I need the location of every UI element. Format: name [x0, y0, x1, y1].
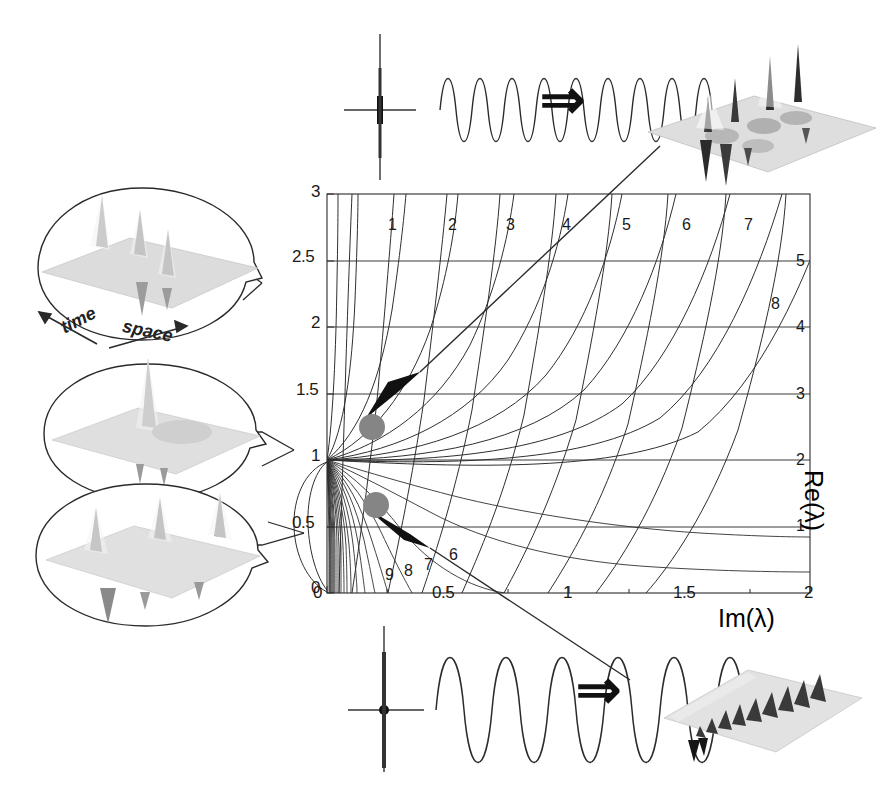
contour-label-right-4: 4: [796, 318, 805, 336]
ytick-1: 1: [311, 446, 320, 466]
surface-plot-icon-bottom-right: [648, 640, 878, 785]
contour-label-right-5: 5: [796, 252, 805, 270]
ytick-2p5: 2.5: [292, 247, 314, 267]
xtick-0p5: 0.5: [432, 583, 454, 603]
xtick-2: 2: [804, 583, 813, 603]
contour-label-inner-7: 7: [424, 556, 433, 574]
ytick-1p5: 1.5: [296, 380, 318, 400]
grid-horizontal: [327, 261, 810, 527]
xtick-1: 1: [563, 583, 572, 603]
implies-arrow-top: ⇒: [540, 72, 585, 126]
xtick-1p5: 1.5: [673, 583, 695, 603]
contour-label-right-3: 3: [796, 385, 805, 403]
ytick-2: 2: [311, 313, 320, 333]
contour-label-extra-8: 8: [771, 295, 780, 313]
figure-canvas: 0 0.5 1 1.5 2 0 0.5 1 1.5 2 2.5 3 Im(λ) …: [0, 0, 896, 792]
contour-curves-upper: [327, 194, 834, 465]
cross-axes-spectrum-icon: [348, 626, 424, 772]
contour-label-top-4: 4: [562, 216, 571, 234]
ytick-0: 0: [311, 578, 320, 598]
contour-label-inner-9: 9: [385, 566, 394, 584]
contour-label-inner-6: 6: [449, 546, 458, 564]
contour-label-right-2: 2: [796, 451, 805, 469]
contour-label-top-3: 3: [506, 216, 515, 234]
contour-label-top-6: 6: [682, 216, 691, 234]
eigenvalue-marker-upper: [359, 414, 385, 440]
ytick-0p5: 0.5: [292, 513, 314, 533]
surface-plot-icon-top-right: [636, 36, 886, 186]
cross-axes-spectrum-icon: [344, 34, 416, 180]
contour-label-inner-8: 8: [404, 562, 413, 580]
contour-label-top-1: 1: [388, 216, 397, 234]
contour-label-top-2: 2: [448, 216, 457, 234]
callout-three-peaks-bottom: [28, 476, 288, 636]
contour-label-top-5: 5: [622, 216, 631, 234]
contour-label-right-1: 1: [796, 517, 805, 535]
eigenvalue-marker-lower: [363, 492, 389, 518]
time-space-axes: [25, 296, 225, 356]
ytick-3: 3: [311, 182, 320, 202]
implies-arrow-bottom: ⇒: [576, 662, 621, 716]
contour-label-top-7: 7: [744, 216, 753, 234]
